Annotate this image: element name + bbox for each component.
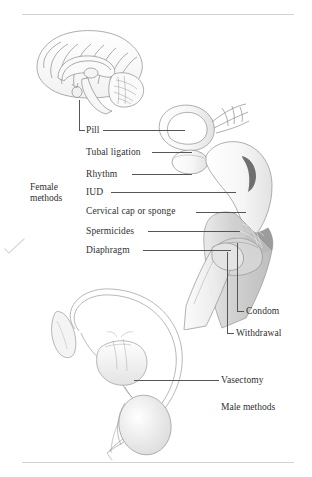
leader-withdrawal-vertical	[227, 252, 228, 333]
leader-diaphragm	[143, 250, 231, 251]
leader-iud	[111, 192, 236, 193]
contraception-figure: Female methods Male methods Pill Tubal l…	[0, 0, 312, 477]
leader-pill-vertical	[79, 108, 80, 130]
label-vasectomy: Vasectomy	[221, 375, 264, 386]
page-rule-bottom	[22, 462, 294, 463]
leader-condom-vertical	[237, 243, 238, 311]
label-condom: Condom	[246, 306, 279, 317]
label-spermicides: Spermicides	[86, 226, 134, 237]
label-pill: Pill	[86, 125, 100, 136]
leader-vasectomy	[134, 380, 219, 381]
page-rule-top	[22, 14, 294, 15]
leader-condom-elbow	[237, 311, 244, 312]
label-withdrawal: Withdrawal	[236, 328, 281, 339]
leader-tubal-ligation	[152, 152, 192, 153]
label-tubal-ligation: Tubal ligation	[86, 147, 141, 158]
leader-rhythm	[132, 174, 192, 175]
leader-pill-elbow	[79, 130, 85, 131]
label-diaphragm: Diaphragm	[86, 245, 130, 256]
leader-spermicides	[148, 231, 240, 232]
leader-cervical-cap	[196, 212, 246, 213]
label-rhythm: Rhythm	[86, 169, 117, 180]
leader-withdrawal-elbow	[227, 333, 234, 334]
group-heading-female-line2: methods	[30, 193, 62, 204]
group-heading-female-line1: Female	[30, 182, 62, 193]
checkmark-scan-artifact-icon	[4, 238, 26, 256]
leader-pill	[103, 130, 185, 131]
group-heading-female: Female methods	[30, 182, 62, 204]
label-iud: IUD	[86, 187, 103, 198]
brain-illustration	[28, 26, 158, 118]
leader-pill-from-brain	[79, 100, 80, 110]
label-cervical-cap-or-sponge: Cervical cap or sponge	[86, 206, 176, 217]
group-heading-male: Male methods	[221, 402, 275, 413]
male-reproductive-tract-illustration	[45, 285, 220, 460]
